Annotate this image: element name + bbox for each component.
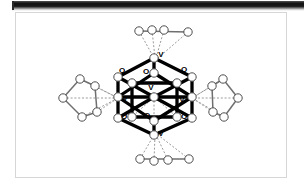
atom-label-O-upper-left: O [119,66,125,75]
atom-label-V-left: V [122,94,128,103]
atom-label-V-right: V [179,95,185,104]
figure-frame: VOOOVVVOOOV [15,12,287,178]
toolbar-rule-line [7,0,304,11]
cut-off-toolbar-rule [7,0,304,11]
ligand-top [135,26,192,36]
atom-label-V-center-upper: V [148,83,154,92]
atom-label-O-upper-right: O [181,65,187,74]
atom-label-V-bottom: V [158,129,164,138]
ligand-bottom [136,155,193,165]
molecular-structure-diagram: VOOOVVVOOOV [16,13,286,177]
toolbar-rule-left-tick [12,1,14,10]
atom-label-O-lower-mid: O [144,111,150,120]
atom-label-O-lower-right: O [181,112,187,121]
atom-label-V-top: V [158,50,164,59]
atom-label-O-lower-left: O [121,112,127,121]
atom-label-O-upper-mid: O [143,67,149,76]
